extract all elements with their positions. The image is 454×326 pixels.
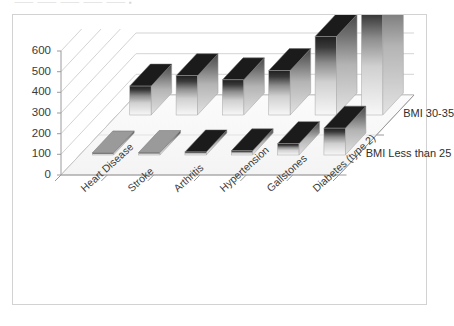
y-tick-100: 100 xyxy=(17,148,51,160)
cropped-header-text: ⸻ ⸻ ⸻ ⸻ ⸻ ▪ xyxy=(14,0,274,6)
series-label-1: BMI 30-35 xyxy=(403,107,454,119)
chart-figure-frame: 0100200300400500600 Heart DiseaseStrokeA… xyxy=(12,14,427,305)
y-tick-400: 400 xyxy=(17,86,51,98)
bar-1-5 xyxy=(361,15,403,115)
y-tick-500: 500 xyxy=(17,66,51,78)
y-tick-200: 200 xyxy=(17,128,51,140)
y-tick-0: 0 xyxy=(17,169,51,181)
three-d-bar-chart xyxy=(13,15,426,304)
y-tick-300: 300 xyxy=(17,107,51,119)
y-tick-600: 600 xyxy=(17,45,51,57)
y-axis xyxy=(57,51,61,175)
chart-plot-area: 0100200300400500600 Heart DiseaseStrokeA… xyxy=(13,15,426,304)
bar-1-4 xyxy=(315,15,357,115)
series-label-0: BMI Less than 25 xyxy=(366,147,452,159)
